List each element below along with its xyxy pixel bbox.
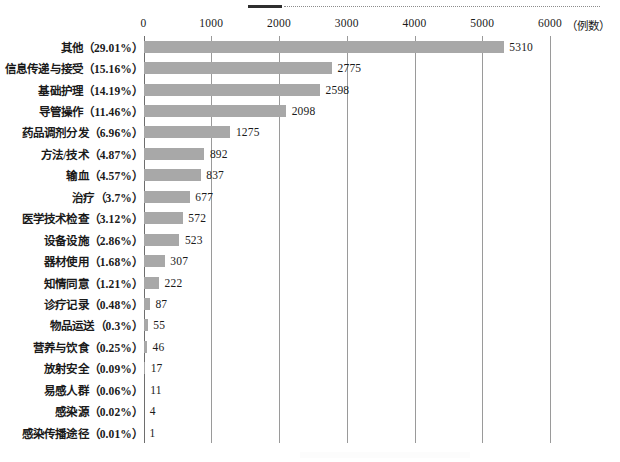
bar-row: 导管操作（11.46%）2098 [0, 100, 620, 121]
category-label: 物品运送（0.3%） [50, 317, 143, 333]
bar-rows: 其他（29.01%）5310信息传递与接受（15.16%）2775基础护理（14… [0, 36, 620, 443]
bar-value-label: 55 [153, 319, 165, 331]
bar [144, 234, 179, 246]
bar-value-label: 1 [150, 427, 156, 439]
bar-row: 信息传递与接受（15.16%）2775 [0, 57, 620, 78]
bar-row: 知情同意（1.21%）222 [0, 272, 620, 293]
bar-row: 感染传播途径（0.01%）1 [0, 422, 620, 443]
bar-row: 易感人群（0.06%）11 [0, 379, 620, 400]
bar-value-label: 2098 [292, 105, 316, 117]
bar-value-label: 11 [150, 384, 161, 396]
bar-row: 器材使用（1.68%）307 [0, 250, 620, 271]
category-label: 知情同意（1.21%） [44, 275, 143, 291]
bar [144, 212, 183, 224]
bar [144, 41, 504, 53]
bar [144, 255, 165, 267]
x-axis-tick-4000: 4000 [403, 17, 427, 29]
category-label: 感染源（0.02%） [55, 403, 143, 419]
category-label: 营养与饮食（0.25%） [33, 339, 143, 355]
bar [144, 319, 148, 331]
category-label: 其他（29.01%） [61, 39, 143, 55]
bar-row: 药品调剂分发（6.96%）1275 [0, 122, 620, 143]
bar [144, 148, 204, 160]
category-label: 器材使用（1.68%） [44, 253, 143, 269]
bar-value-label: 1275 [236, 126, 260, 138]
bar [144, 341, 147, 353]
bar-row: 其他（29.01%）5310 [0, 36, 620, 57]
category-label: 诊疗记录（0.48%） [44, 296, 143, 312]
x-axis-tick-2000: 2000 [267, 17, 291, 29]
horizontal-bar-chart: 0100020003000400050006000 （例数） 其他（29.01%… [0, 0, 620, 462]
bottom-caption-remnant [300, 452, 470, 458]
bar-row: 基础护理（14.19%）2598 [0, 79, 620, 100]
category-label: 药品调剂分发（6.96%） [22, 124, 143, 140]
x-axis-tick-0: 0 [141, 17, 147, 29]
bar-row: 方法/技术（4.87%）892 [0, 143, 620, 164]
x-axis-tick-3000: 3000 [335, 17, 359, 29]
x-axis-unit-label: （例数） [566, 17, 610, 33]
bar [144, 62, 332, 74]
bar-row: 物品运送（0.3%）55 [0, 315, 620, 336]
category-label: 设备设施（2.86%） [44, 232, 143, 248]
bar [144, 126, 230, 138]
bar [144, 105, 286, 117]
category-label: 导管操作（11.46%） [39, 103, 143, 119]
bar-row: 输血（4.57%）837 [0, 165, 620, 186]
bar-value-label: 17 [151, 362, 163, 374]
category-label: 治疗（3.7%） [72, 189, 143, 205]
category-label: 放射安全（0.09%） [44, 360, 143, 376]
x-axis-tick-6000: 6000 [538, 17, 562, 29]
bar [144, 191, 190, 203]
bar [144, 84, 320, 96]
bar-value-label: 677 [195, 191, 213, 203]
category-label: 基础护理（14.19%） [38, 82, 143, 98]
bar-value-label: 2598 [326, 84, 350, 96]
bar-row: 营养与饮食（0.25%）46 [0, 336, 620, 357]
bar-value-label: 5310 [509, 41, 533, 53]
bar [144, 298, 150, 310]
bar-value-label: 4 [150, 405, 156, 417]
category-label: 医学技术检查（3.12%） [22, 210, 143, 226]
bar-row: 放射安全（0.09%）17 [0, 358, 620, 379]
bar [144, 277, 159, 289]
bar-value-label: 2775 [338, 62, 362, 74]
category-label: 信息传递与接受（15.16%） [5, 60, 143, 76]
category-label: 方法/技术（4.87%） [41, 146, 143, 162]
bar [144, 362, 145, 374]
bar-row: 医学技术检查（3.12%）572 [0, 208, 620, 229]
bar-value-label: 87 [155, 298, 167, 310]
bar-row: 设备设施（2.86%）523 [0, 229, 620, 250]
bar-value-label: 222 [165, 277, 183, 289]
bar-value-label: 837 [206, 169, 224, 181]
x-axis-tick-1000: 1000 [199, 17, 223, 29]
category-label: 易感人群（0.06%） [44, 382, 143, 398]
bar-value-label: 892 [210, 148, 228, 160]
bar [144, 169, 201, 181]
bar-row: 感染源（0.02%）4 [0, 400, 620, 421]
bar-value-label: 523 [185, 234, 203, 246]
bar-row: 诊疗记录（0.48%）87 [0, 293, 620, 314]
bar-value-label: 572 [188, 212, 206, 224]
bar-value-label: 307 [170, 255, 188, 267]
x-axis-tick-5000: 5000 [470, 17, 494, 29]
category-label: 感染传播途径（0.01%） [22, 425, 143, 441]
bar-value-label: 46 [153, 341, 165, 353]
category-label: 输血（4.57%） [66, 167, 143, 183]
bar-row: 治疗（3.7%）677 [0, 186, 620, 207]
